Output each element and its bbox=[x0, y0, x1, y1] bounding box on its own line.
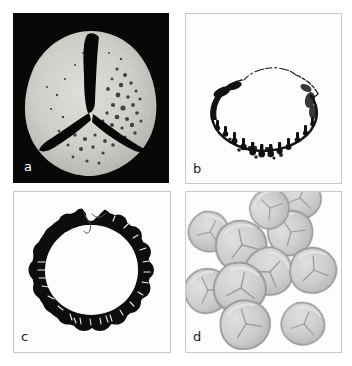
panel-c-micrograph bbox=[14, 192, 168, 350]
panel-d-micrograph bbox=[186, 192, 339, 350]
panel-c: c bbox=[13, 191, 171, 353]
panel-a-micrograph bbox=[13, 13, 169, 183]
figure-plate: a bbox=[0, 0, 352, 366]
panel-d: d bbox=[185, 191, 342, 353]
panel-label-c: c bbox=[21, 330, 28, 343]
panel-a: a bbox=[13, 13, 169, 183]
panel-label-d: d bbox=[193, 330, 201, 343]
panel-label-b: b bbox=[193, 162, 201, 175]
panel-label-a: a bbox=[24, 160, 32, 173]
panel-b-micrograph bbox=[186, 14, 339, 181]
panel-b: b bbox=[185, 13, 342, 184]
